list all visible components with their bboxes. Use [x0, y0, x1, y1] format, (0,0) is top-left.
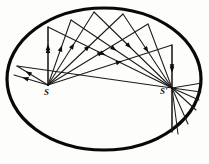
- focus-point-sp: [171, 87, 173, 89]
- ray-s-to-p4: [48, 20, 71, 85]
- focus-points-layer: [47, 84, 173, 89]
- ray-s-to-p5-arrowhead: [69, 43, 74, 49]
- ray-sp-up-right: [172, 83, 202, 88]
- ray-s-to-p1: [17, 66, 48, 85]
- ray-s-to-p4-arrowhead: [58, 45, 62, 52]
- focus-label-s: S: [44, 88, 49, 97]
- ray-p4-to-sp: [71, 20, 172, 88]
- ray-s-to-p2: [14, 75, 48, 85]
- ray-p6-to-sp-arrowhead: [143, 46, 148, 52]
- ray-s-to-p2-arrowhead: [22, 77, 29, 81]
- ray-s-to-p1-arrowhead: [26, 71, 32, 76]
- elliptical-mirror-figure: S S': [0, 0, 209, 164]
- focus-label-s-prime: S': [160, 87, 168, 96]
- focus-point-s: [47, 84, 49, 86]
- figure-canvas: [0, 0, 209, 164]
